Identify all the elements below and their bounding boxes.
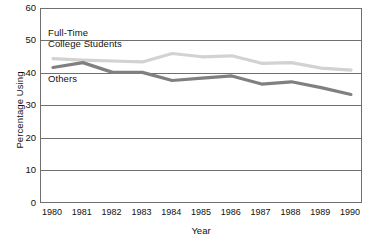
series-annotation-line-1: Full-Time [48,27,122,38]
y-tick-label: 50 [14,35,36,45]
x-tick-label: 1985 [191,206,211,218]
y-tick-label: 40 [14,68,36,78]
x-axis-tick-labels: 1980198119821983198419851986198719881989… [0,206,371,220]
x-axis-title: Year [40,225,362,236]
series-line-others [53,63,351,95]
x-tick-label: 1983 [131,206,151,218]
y-tick-label: 10 [14,165,36,175]
x-tick-label: 1982 [102,206,122,218]
series-annotation-line-2: College Students [48,38,122,49]
series-annotation-others: Others [48,73,77,84]
series-annotation-line-1: Others [48,73,77,84]
x-tick-label: 1990 [340,206,360,218]
x-tick-label: 1984 [161,206,181,218]
x-tick-label: 1988 [280,206,300,218]
series-annotation-full-time: Full-Time College Students [48,27,122,49]
x-tick-label: 1981 [72,206,92,218]
x-tick-label: 1987 [251,206,271,218]
x-tick-label: 1980 [42,206,62,218]
y-tick-label: 20 [14,133,36,143]
x-tick-label: 1986 [221,206,241,218]
y-tick-label: 60 [14,3,36,13]
y-tick-label: 30 [14,100,36,110]
chart-container: Percentage Using 60 50 40 30 20 10 0 Ful… [0,0,371,244]
x-tick-label: 1989 [310,206,330,218]
chart-title-cropped [60,0,360,3]
